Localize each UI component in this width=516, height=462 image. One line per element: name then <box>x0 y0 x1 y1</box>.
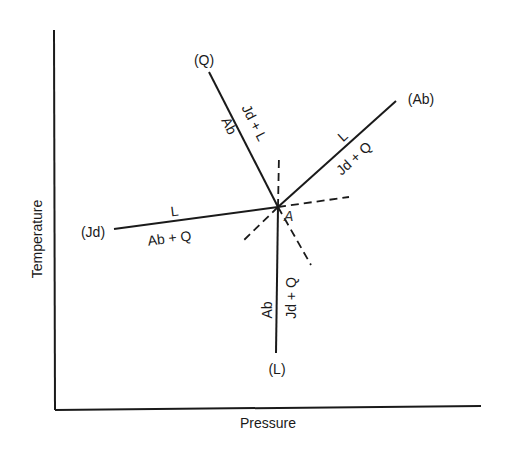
end-label-q: (Q) <box>194 52 214 68</box>
curve-q-label-b: Ab <box>218 114 240 137</box>
extension-q-lower-right <box>278 207 311 265</box>
x-axis-label: Pressure <box>240 415 296 431</box>
curve-l-label-b: Jd + Q <box>283 277 299 319</box>
curve-ab-label-b: Jd + Q <box>333 138 375 178</box>
curve-jd <box>114 207 278 229</box>
curve-l-label-a: Ab <box>259 301 275 318</box>
axes <box>54 30 481 410</box>
x-axis <box>55 406 481 410</box>
end-label-ab: (Ab) <box>408 91 434 107</box>
phase-diagram: Temperature Pressure A (Q) (Ab) (Jd) (L)… <box>0 0 516 462</box>
invariant-point-label: A <box>283 208 293 224</box>
extension-l-up <box>278 155 279 207</box>
curve-l <box>276 207 278 353</box>
y-axis <box>54 30 55 410</box>
curve-jd-label-a: L <box>170 203 180 220</box>
end-label-l: (L) <box>268 361 285 377</box>
y-axis-label: Temperature <box>29 199 45 278</box>
curve-ab <box>278 101 396 207</box>
end-label-jd: (Jd) <box>81 224 105 240</box>
curve-ab-label-a: L <box>334 128 351 145</box>
curve-jd-label-b: Ab + Q <box>147 227 193 248</box>
extension-ab-lower-left <box>242 207 278 242</box>
curve-q <box>209 72 278 207</box>
